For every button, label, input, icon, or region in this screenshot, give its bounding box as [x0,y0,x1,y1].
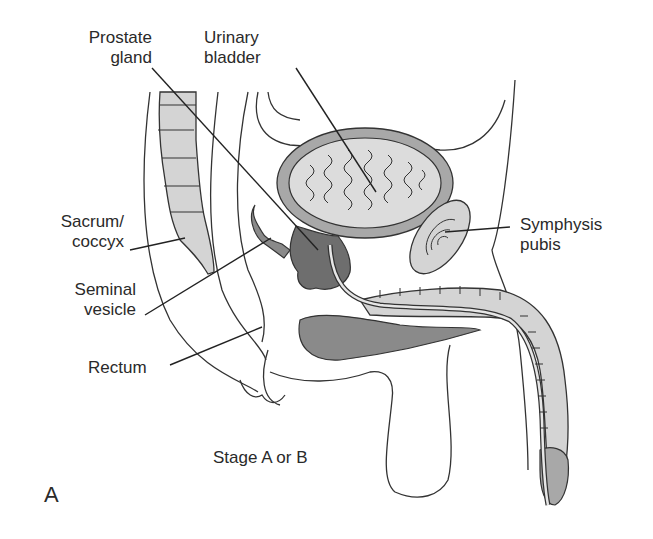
label-rectum: Rectum [88,358,147,378]
label-sacrum-coccyx: Sacrum/ coccyx [28,212,124,252]
label-prostate-gland: Prostate gland [62,28,152,68]
panel-letter: A [44,485,59,505]
label-urinary-bladder: Urinary bladder [204,28,261,68]
pelvis-illustration [0,0,653,539]
label-seminal-vesicle: Seminal vesicle [40,280,136,320]
anatomy-diagram: Prostate gland Urinary bladder Sacrum/ c… [0,0,653,539]
sacrum-coccyx-shape [158,92,214,274]
figure-caption: Stage A or B [213,448,308,468]
label-symphysis-pubis: Symphysis pubis [520,215,602,255]
